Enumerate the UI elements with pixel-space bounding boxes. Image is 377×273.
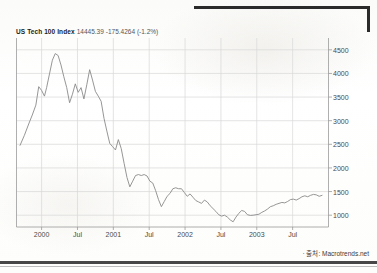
index-name-label: US Tech 100 Index (16, 28, 75, 35)
index-change-label: -175.4264 (-1.2%) (106, 28, 158, 35)
y-axis-tick-label: 1500 (333, 188, 349, 195)
y-axis-tick-label: 4000 (333, 70, 349, 77)
chart-header: US Tech 100 Index14445.39-175.4264 (-1.2… (16, 27, 158, 36)
y-axis-tick-label: 2000 (333, 164, 349, 171)
x-axis-tick-label: Jul (145, 231, 154, 238)
x-gridlines (42, 38, 293, 227)
y-axis-tick-label: 2500 (333, 141, 349, 148)
y-axis-tick-label: 3500 (333, 94, 349, 101)
x-axis-tick-label: 2003 (249, 231, 265, 238)
y-axis-tick-label: 3000 (333, 117, 349, 124)
y-axis-tick-label: 1000 (333, 212, 349, 219)
scanned-page: US Tech 100 Index14445.39-175.4264 (-1.2… (0, 0, 377, 273)
x-axis-tick-label: Jul (288, 231, 297, 238)
series-line-us-tech-100 (20, 54, 322, 222)
x-axis-tick-label: Jul (73, 231, 82, 238)
x-axis-tick-label: 2002 (177, 231, 193, 238)
axis-ticks (42, 50, 332, 230)
chart-axes (17, 38, 329, 227)
y-axis-tick-label: 4500 (333, 46, 349, 53)
index-line-chart: US Tech 100 Index14445.39-175.4264 (-1.2… (0, 0, 377, 273)
x-axis-tick-label: Jul (216, 231, 225, 238)
source-attribution: · 출처: Macrotrends.net (302, 248, 369, 258)
index-value-label: 14445.39 (77, 28, 104, 35)
x-axis-tick-label: 2000 (34, 231, 50, 238)
source-bullet: · (302, 250, 304, 257)
x-axis-tick-label: 2001 (106, 231, 122, 238)
source-text: 출처: Macrotrends.net (306, 250, 369, 257)
